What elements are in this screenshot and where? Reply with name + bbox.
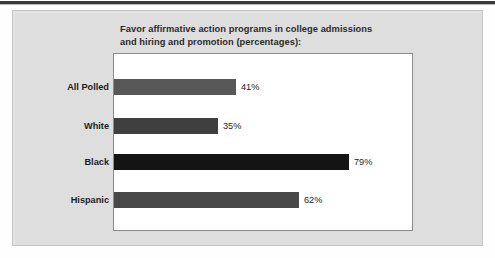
bar-value-label: 62% xyxy=(304,192,322,208)
bar xyxy=(114,79,236,95)
page-top-rule-shadow xyxy=(0,4,495,5)
bar-category-label: Black xyxy=(13,154,109,170)
bar xyxy=(114,192,299,208)
figure-root: Favor affirmative action programs in col… xyxy=(0,0,495,258)
bar-category-label: All Polled xyxy=(13,79,109,95)
chart-panel: Favor affirmative action programs in col… xyxy=(12,10,483,246)
bar-category-label: White xyxy=(13,118,109,134)
bar-value-label: 35% xyxy=(223,118,241,134)
bar-value-label: 41% xyxy=(241,79,259,95)
bar xyxy=(114,118,218,134)
bar-category-label: Hispanic xyxy=(13,192,109,208)
bar-value-label: 79% xyxy=(354,154,372,170)
bar-row: All Polled41% xyxy=(13,79,484,95)
bar-row: Black79% xyxy=(13,154,484,170)
bar xyxy=(114,154,349,170)
bar-row: Hispanic62% xyxy=(13,192,484,208)
bar-row: White35% xyxy=(13,118,484,134)
bar-rows: All Polled41%White35%Black79%Hispanic62% xyxy=(13,11,484,247)
